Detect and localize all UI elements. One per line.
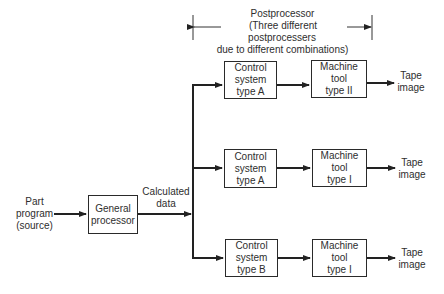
postprocessor-heading: Postprocessor (Three different postproce… — [215, 8, 350, 56]
machine-tool-box-3: Machine tool type I — [312, 239, 367, 277]
tape-image-label-3: Tape image — [397, 247, 427, 271]
machine-tool-box-1: Machine tool type II — [311, 60, 367, 98]
postprocessor-subtitle-line1: (Three different postprocessers — [248, 20, 317, 43]
control-system-box-1: Control system type A — [224, 61, 277, 99]
general-processor-box: General processor — [88, 195, 138, 234]
calculated-data-label: Calculated data — [140, 186, 192, 210]
control-system-box-3: Control system type B — [225, 239, 278, 277]
tape-image-label-2: Tape image — [397, 157, 427, 181]
part-program-label: Part program (source) — [12, 196, 57, 232]
tape-image-label-1: Tape image — [396, 70, 426, 94]
postprocessor-subtitle-line2: due to different combinations) — [217, 44, 349, 55]
control-system-box-2: Control system type A — [224, 149, 277, 188]
machine-tool-box-2: Machine tool type I — [312, 149, 367, 187]
postprocessor-title: Postprocessor — [251, 8, 315, 19]
